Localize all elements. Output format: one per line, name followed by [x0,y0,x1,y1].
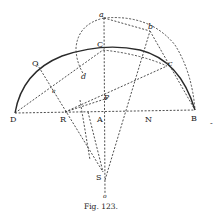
label-C: C [97,40,103,49]
stray-mark: - [210,119,213,128]
label-D: D [10,115,16,124]
label-b: b [148,22,153,31]
label-c: c [168,59,173,68]
label-e: e [52,87,56,94]
vertical-axis [104,18,105,193]
baseline-D-B [15,110,195,113]
label-o: o [103,192,107,199]
line-d-tick [80,100,90,160]
diagram-canvas: D R A N B C P S o Q e d a b c - Fig. 123… [0,0,222,213]
label-B: B [191,114,197,123]
label-a: a [99,10,104,19]
label-R: R [60,115,67,124]
a-b-chord [104,18,150,31]
label-N: N [145,115,152,124]
inner-dashed-arc [103,50,167,66]
line-S-b [105,31,150,180]
line-Q-S [37,64,103,172]
label-A: A [96,115,103,124]
label-d: d [81,72,86,81]
line-R-P [65,98,108,112]
geometry-figure: D R A N B C P S o Q e d a b c - Fig. 123… [0,0,222,213]
main-arc [15,47,195,113]
line-b-B [150,31,195,110]
label-P: P [104,93,110,102]
figure-caption: Fig. 123. [84,202,118,211]
label-S: S [96,173,101,182]
label-Q: Q [32,59,39,68]
